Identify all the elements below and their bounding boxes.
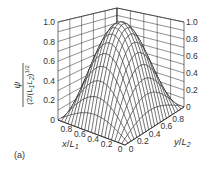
x-tick: 0.2 xyxy=(101,139,113,149)
z-tick-left: 0.6 xyxy=(43,56,55,66)
y-tick: 0 xyxy=(129,144,134,154)
x-axis-label: x/L1 xyxy=(61,138,79,150)
x-tick: 0 xyxy=(118,144,123,154)
z-tick-right: 0.2 xyxy=(186,85,198,95)
x-tick: 0.4 xyxy=(87,134,99,144)
panel-label: (a) xyxy=(14,150,25,160)
z-tick-right: 0 xyxy=(186,102,191,112)
z-label-denominator: (2/(L1L2)1/2 xyxy=(24,64,35,104)
z-label-numerator: ψ xyxy=(11,81,22,88)
z-tick-left: 0.4 xyxy=(43,76,55,86)
y-tick: 0.8 xyxy=(172,114,184,124)
y-tick: 0.2 xyxy=(137,136,149,146)
z-tick-right: 1.0 xyxy=(186,17,198,27)
y-tick: 0.6 xyxy=(160,121,172,131)
z-tick-left: 0 xyxy=(50,115,55,125)
x-tick: 0.6 xyxy=(74,129,86,139)
surface-plot: 00.20.40.60.81.0 00.20.40.60.81.0 00.20.… xyxy=(0,0,211,170)
z-tick-left: 0.2 xyxy=(43,95,55,105)
y-tick: 0.4 xyxy=(149,129,161,139)
z-axis-label: ψ (2/(L1L2)1/2 xyxy=(11,63,35,107)
z-tick-left: 1.0 xyxy=(43,17,55,27)
z-tick-left: 0.8 xyxy=(43,37,55,47)
y-axis-label: y/L2 xyxy=(173,136,191,148)
z-axis-ticks-right: 00.20.40.60.81.0 xyxy=(186,17,198,112)
x-tick: 0.8 xyxy=(60,124,72,134)
z-axis-ticks-left: 00.20.40.60.81.0 xyxy=(43,17,55,125)
z-tick-right: 0.6 xyxy=(186,51,198,61)
z-tick-right: 0.8 xyxy=(186,34,198,44)
z-tick-right: 0.4 xyxy=(186,68,198,78)
